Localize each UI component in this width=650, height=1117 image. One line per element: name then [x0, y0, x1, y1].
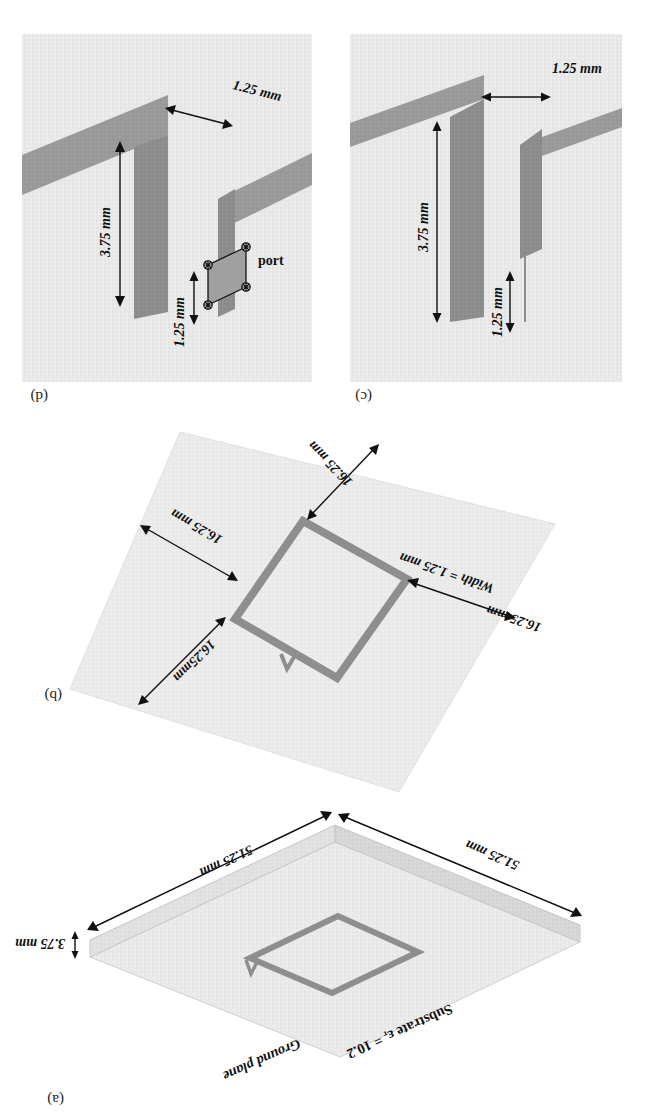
panel-a-artwork: 3.75 mm 51.25 mm 51.25 mm Substrate εᵣ =… [0, 817, 650, 1117]
panel-b-artwork: 16.25mm 16.25 mm 16.25 mm Width = 1.25 m… [0, 417, 650, 817]
panel-d-label: (d) [31, 388, 49, 405]
label-port-d: port [258, 253, 284, 268]
panel-b-label: (b) [45, 687, 63, 704]
dim-gap-d: 1.25 mm [172, 297, 187, 347]
dim-depth-c: 1.25 mm [552, 61, 602, 76]
dim-side-left-a: 51.25 mm [463, 837, 521, 873]
panel-d: port 1.25 mm 3.75 mm 1.25 mm (d) [0, 0, 330, 417]
dim-gap-c: 1.25 mm [490, 287, 505, 337]
panel-b: 16.25mm 16.25 mm 16.25 mm Width = 1.25 m… [0, 417, 650, 817]
label-ground-plane: Ground plane [220, 1036, 303, 1085]
panel-d-artwork: port 1.25 mm 3.75 mm 1.25 mm [0, 0, 330, 417]
panel-c: 1.25 mm 3.75 mm 1.25 mm (c) [320, 0, 650, 417]
panel-c-label: (c) [355, 388, 372, 405]
panel-a: 3.75 mm 51.25 mm 51.25 mm Substrate εᵣ =… [0, 817, 650, 1117]
panel-a-label: (a) [47, 1091, 64, 1108]
dim-height-d: 3.75 mm [98, 207, 113, 258]
dim-height-c: 3.75 mm [416, 202, 431, 253]
figure-sheet: 3.75 mm 51.25 mm 51.25 mm Substrate εᵣ =… [0, 0, 650, 1117]
dim-thickness-a: 3.75 mm [15, 936, 66, 951]
panel-c-artwork: 1.25 mm 3.75 mm 1.25 mm [320, 0, 650, 417]
